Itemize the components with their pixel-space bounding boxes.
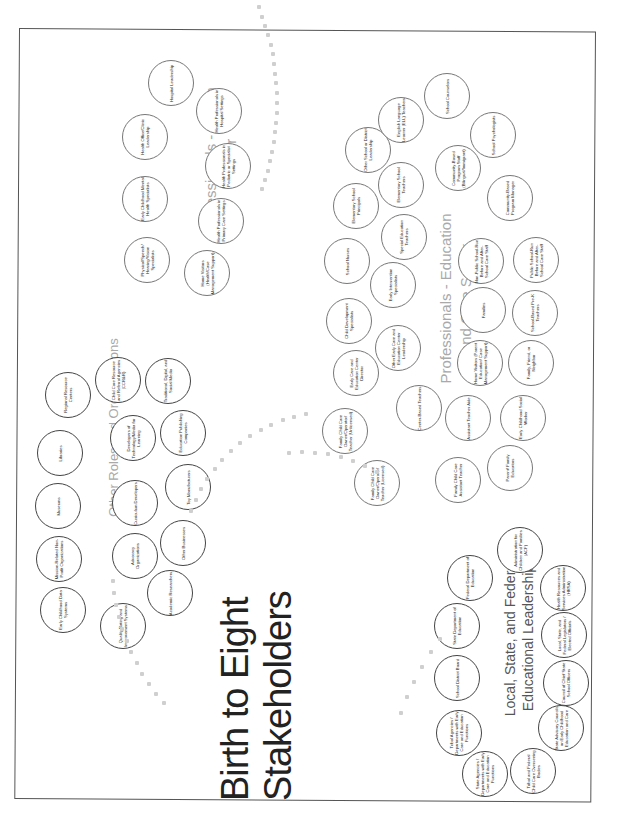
arc-dot: [275, 91, 279, 95]
stakeholder-bubble[interactable]: Administration for Children and Families…: [497, 527, 543, 573]
stakeholder-bubble[interactable]: School Psychologists: [470, 112, 516, 158]
stakeholder-bubble[interactable]: School District Board: [434, 655, 480, 701]
stakeholder-bubble[interactable]: Federal Department of Education: [447, 555, 493, 601]
arc-dot: [140, 672, 144, 676]
stakeholder-bubble[interactable]: Special Education Teachers: [381, 214, 427, 260]
stakeholder-bubble[interactable]: Elementary School Teachers: [378, 162, 424, 208]
stakeholder-bubble[interactable]: Home Visitors (Health/Case Management Su…: [184, 250, 230, 296]
stakeholder-bubble[interactable]: State Advisory Councils on Early Childho…: [538, 705, 584, 751]
stakeholder-bubble[interactable]: Hospital Leadership: [148, 60, 194, 106]
stakeholder-bubble[interactable]: Families: [460, 287, 506, 333]
arc-dot: [339, 455, 343, 459]
stakeholder-bubble[interactable]: Home Visitors (Parent Education/ Case Ma…: [457, 340, 503, 386]
stakeholder-bubble[interactable]: Health Professionals in Primary Care Set…: [198, 198, 244, 244]
stakeholder-bubble[interactable]: Assistant Teacher Aide: [445, 395, 491, 441]
stakeholder-bubble[interactable]: Museums: [35, 483, 81, 529]
arc-dot: [189, 509, 193, 513]
stakeholder-bubble[interactable]: Toy Manufacturers: [165, 464, 211, 510]
arc-dot: [274, 121, 278, 125]
arc-dot: [259, 428, 263, 432]
stakeholder-bubble[interactable]: Early Care and Education Center Director: [333, 350, 379, 396]
stakeholder-bubble[interactable]: Health Resources and Services Administra…: [540, 565, 586, 611]
arc-dot: [351, 459, 355, 463]
stakeholder-bubble[interactable]: Community-Based Program Manager: [487, 175, 533, 221]
stakeholder-bubble[interactable]: Health Office/Clinic Leadership: [122, 114, 168, 160]
stakeholder-bubble[interactable]: Physical/Speech/ Hearing/Vision Speciali…: [124, 237, 170, 283]
stakeholder-bubble[interactable]: Curriculum Developers: [112, 480, 158, 526]
arc-dot: [129, 650, 133, 654]
arc-dot: [135, 661, 139, 665]
arc-dot: [412, 680, 416, 684]
stakeholder-bubble[interactable]: Council of Chief State School Officers: [543, 660, 589, 706]
stakeholder-bubble[interactable]: Developers of Technology/Media for Learn…: [110, 415, 156, 461]
cluster-title-education-1: Professionals - Education: [437, 199, 454, 399]
stakeholder-bubble[interactable]: Tribal and Federal Child Care Overseeing…: [510, 748, 556, 794]
arc-dot: [248, 434, 252, 438]
stakeholder-bubble[interactable]: Quality Rating and Improvement Systems: [100, 603, 146, 649]
stakeholder-bubble[interactable]: State Department of Education: [434, 603, 480, 649]
stakeholder-bubble[interactable]: Family Child Care Owner/Operator/ Teache…: [322, 408, 368, 454]
stakeholder-bubble[interactable]: Advocacy Organizations: [112, 533, 158, 579]
stakeholder-bubble[interactable]: Community-Based Program Staff (Bilingual…: [435, 145, 481, 191]
arc-dot: [120, 627, 124, 631]
arc-dot: [273, 72, 277, 76]
stakeholder-bubble[interactable]: School Counselors: [424, 73, 470, 119]
stakeholder-bubble[interactable]: Libraries: [37, 430, 83, 476]
stakeholder-bubble[interactable]: Family, Friend, or Neighbor: [508, 340, 554, 386]
stakeholder-bubble[interactable]: School Nurses: [324, 238, 370, 284]
stakeholder-bubble[interactable]: Child Development Specialists: [326, 298, 372, 344]
stakeholder-bubble[interactable]: Early Childhood Data Systems: [40, 587, 86, 633]
stakeholder-bubble[interactable]: Early Intervention Specialists: [370, 262, 416, 308]
stakeholder-bubble[interactable]: Health Professionals in Hospital Setting…: [196, 88, 242, 134]
stakeholder-bubble[interactable]: Early Childhood Mental Health Specialist…: [122, 176, 168, 222]
stakeholder-bubble[interactable]: Early Childhood Social Worker: [500, 395, 546, 441]
arc-dot: [304, 412, 308, 416]
arc-dot: [281, 418, 285, 422]
arc-dot: [162, 701, 166, 705]
arc-dot: [429, 650, 433, 654]
arc-dot: [238, 441, 242, 445]
stakeholder-bubble[interactable]: Child Care Resource and Referral Agencie…: [95, 357, 141, 403]
arc-dot: [269, 43, 273, 47]
arc-dot: [313, 451, 317, 455]
arc-dot: [220, 458, 224, 462]
stakeholder-bubble[interactable]: Family Child Care Owner/Operator/ Teache…: [354, 460, 400, 506]
stakeholder-bubble[interactable]: Other Early Care and Education Center Le…: [375, 325, 421, 371]
arc-dot: [114, 603, 118, 607]
stakeholder-bubble[interactable]: Parent/ Family Educators: [487, 445, 533, 491]
arc-dot: [375, 470, 379, 474]
stakeholder-bubble[interactable]: Elementary School Principals: [333, 183, 379, 229]
arc-dot: [194, 498, 198, 502]
stakeholder-bubble[interactable]: Tribal Agencies / Departments with Early…: [436, 710, 482, 756]
arc-dot: [269, 423, 273, 427]
arc-dot: [363, 464, 367, 468]
stakeholder-bubble[interactable]: Health Professionals in Pediatric or Spe…: [205, 143, 251, 189]
stakeholder-bubble[interactable]: School-Based Pre-K Teachers: [512, 290, 558, 336]
arc-dot: [399, 711, 403, 715]
stakeholder-bubble[interactable]: English Language Learner (ELL) Teachers: [378, 97, 424, 143]
stakeholder-bubble[interactable]: Other Businesses: [160, 520, 206, 566]
arc-dot: [275, 101, 279, 105]
arc-dot: [147, 682, 151, 686]
arc-dot: [300, 450, 304, 454]
stakeholder-bubble[interactable]: Family Child Care Assistant Teacher: [435, 457, 481, 503]
arc-dot: [205, 477, 209, 481]
arc-dot: [213, 467, 217, 471]
arc-dot: [257, 5, 261, 9]
stakeholder-bubble[interactable]: Mission-Related Non-Profit Organizations: [36, 536, 82, 582]
arc-dot: [154, 692, 158, 696]
stakeholder-bubble[interactable]: Traditional, Digital, and Social Media: [145, 358, 191, 404]
stakeholder-bubble[interactable]: Non-Public School-Run Before and After-S…: [458, 238, 504, 284]
stakeholder-bubble[interactable]: Center-Based Teachers: [396, 385, 442, 431]
arc-dot: [272, 62, 276, 66]
arc-dot: [275, 111, 279, 115]
stakeholder-bubble[interactable]: Education Publishing Companies: [160, 410, 206, 456]
arc-dot: [287, 451, 291, 455]
arc-dot: [270, 150, 274, 154]
stakeholder-bubble[interactable]: Local, State, and Federal Legislators / …: [541, 612, 587, 658]
stakeholder-bubble[interactable]: State Agencies / Departments with Early …: [462, 751, 508, 797]
stakeholder-bubble[interactable]: Regional Resource Centers: [45, 372, 91, 418]
arc-dot: [272, 140, 276, 144]
stakeholder-bubble[interactable]: Academic Researchers: [147, 570, 193, 616]
stakeholder-bubble[interactable]: Public School-Run Before and After-Schoo…: [513, 237, 559, 283]
